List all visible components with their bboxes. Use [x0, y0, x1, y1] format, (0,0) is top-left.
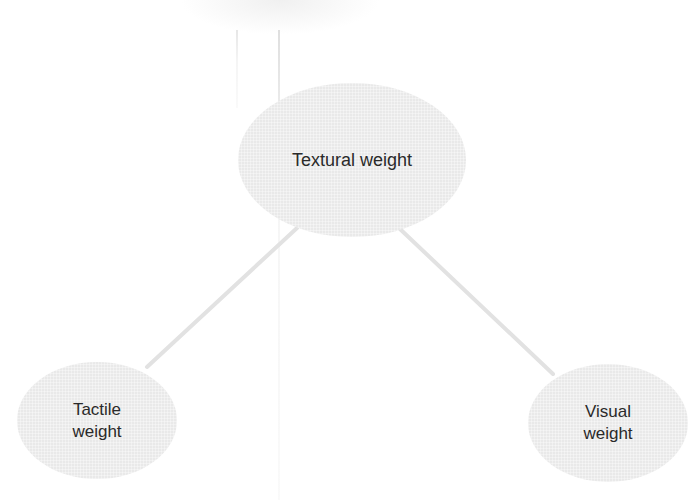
node-label-line-2: weight: [72, 421, 121, 443]
node-label-line-1: Tactile: [73, 399, 121, 421]
edge-textural-visual: [400, 229, 553, 374]
node-label-line-2: weight: [583, 423, 632, 445]
node-tactile-weight: Tactile weight: [17, 362, 177, 479]
edge-textural-tactile: [147, 228, 297, 367]
node-label-line-1: Visual: [585, 401, 631, 423]
node-visual-weight: Visual weight: [528, 364, 688, 482]
node-textural-weight: Textural weight: [238, 83, 466, 237]
diagram-canvas: Textural weight Tactile weight Visual we…: [0, 0, 693, 501]
node-label: Textural weight: [292, 149, 412, 171]
